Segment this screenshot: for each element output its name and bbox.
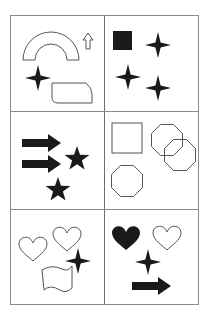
right-arrow-filled-icon xyxy=(22,134,61,152)
four-point-star-icon xyxy=(135,249,161,275)
square-filled-icon xyxy=(113,31,132,50)
four-point-star-icon xyxy=(145,75,171,101)
cell-r0-c1 xyxy=(113,31,171,101)
right-arrow-filled-icon xyxy=(22,155,61,173)
cell-r2-c0 xyxy=(19,227,91,291)
four-point-star-icon xyxy=(25,65,51,91)
cell-r2-c1 xyxy=(112,226,181,295)
wave-flag-outline-icon xyxy=(42,266,72,292)
heart-outline-icon xyxy=(153,226,181,250)
right-arrow-filled-icon xyxy=(132,277,171,295)
heart-outline-icon xyxy=(19,237,47,261)
rounded-tab-outline-icon xyxy=(52,83,92,103)
five-point-star-icon xyxy=(46,177,71,201)
four-point-star-icon xyxy=(115,64,141,90)
cell-r1-c0 xyxy=(22,134,89,201)
cell-r1-c1 xyxy=(112,123,196,197)
cell-r0-c0 xyxy=(23,32,93,103)
arch-outline-icon xyxy=(23,32,79,60)
heart-filled-icon xyxy=(112,226,140,250)
octagon-outline-icon xyxy=(112,166,143,197)
four-point-star-icon xyxy=(145,32,171,58)
heart-outline-icon xyxy=(53,227,81,251)
five-point-star-icon xyxy=(65,146,90,170)
up-arrow-outline-icon xyxy=(83,33,93,49)
square-outline-icon xyxy=(112,123,142,153)
puzzle-shapes xyxy=(0,0,213,319)
